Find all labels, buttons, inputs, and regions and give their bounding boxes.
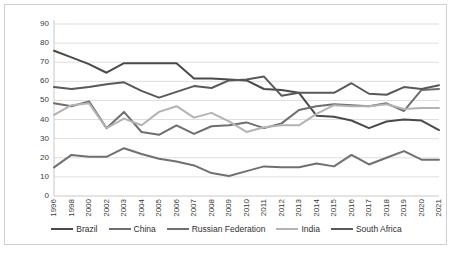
x-axis-tick-label: 2015 bbox=[330, 199, 338, 217]
x-axis-tick-label: 1998 bbox=[68, 199, 76, 217]
x-axis-tick-label: 2013 bbox=[295, 199, 303, 217]
x-axis-tick-label: 2000 bbox=[85, 199, 93, 217]
y-axis-tick-label: 60 bbox=[27, 77, 49, 85]
y-axis-tick-label: 40 bbox=[27, 116, 49, 124]
x-axis-tick-label: 2010 bbox=[243, 199, 251, 217]
y-axis-tick-label: 30 bbox=[27, 135, 49, 143]
legend-item-china[interactable]: China bbox=[109, 224, 156, 234]
legend-swatch-icon bbox=[51, 228, 73, 231]
series-line-china bbox=[54, 89, 439, 135]
chart-legend: BrazilChinaRussian FederationIndiaSouth … bbox=[5, 224, 448, 234]
x-axis-tick-label: 2016 bbox=[348, 199, 356, 217]
chart-container: Corruption control level 010203040506070… bbox=[4, 4, 447, 245]
y-axis-tick-label: 20 bbox=[27, 154, 49, 162]
x-axis-tick-label: 2017 bbox=[365, 199, 373, 217]
x-axis-tick-label: 2004 bbox=[138, 199, 146, 217]
y-axis-tick-label: 70 bbox=[27, 58, 49, 66]
legend-label: India bbox=[301, 224, 319, 234]
legend-swatch-icon bbox=[167, 228, 189, 231]
x-axis-tick-label: 2002 bbox=[103, 199, 111, 217]
x-axis-tick-label: 2021 bbox=[435, 199, 443, 217]
legend-label: South Africa bbox=[356, 224, 402, 234]
x-axis-tick-label: 2008 bbox=[208, 199, 216, 217]
x-axis-tick-label: 2003 bbox=[120, 199, 128, 217]
legend-label: Brazil bbox=[76, 224, 97, 234]
x-axis-tick-label: 2011 bbox=[260, 199, 268, 216]
legend-label: Russian Federation bbox=[192, 224, 266, 234]
legend-item-brazil[interactable]: Brazil bbox=[51, 224, 97, 234]
x-axis-tick-label: 2019 bbox=[400, 199, 408, 217]
x-axis-tick-label: 2005 bbox=[155, 199, 163, 217]
plot-area: 0102030405060708090199619982000200220032… bbox=[5, 5, 448, 246]
legend-swatch-icon bbox=[276, 228, 298, 231]
legend-item-russian-federation[interactable]: Russian Federation bbox=[167, 224, 266, 234]
x-axis-tick-label: 2014 bbox=[313, 199, 321, 217]
x-axis-tick-label: 2009 bbox=[225, 199, 233, 217]
legend-swatch-icon bbox=[331, 228, 353, 231]
x-axis-tick-label: 1996 bbox=[50, 199, 58, 217]
series-line-south-africa bbox=[54, 77, 439, 98]
x-axis-tick-label: 2007 bbox=[190, 199, 198, 217]
y-axis-tick-label: 80 bbox=[27, 39, 49, 47]
series-line-india bbox=[54, 103, 439, 132]
legend-label: China bbox=[134, 224, 156, 234]
legend-item-south-africa[interactable]: South Africa bbox=[331, 224, 402, 234]
x-axis-tick-label: 2006 bbox=[173, 199, 181, 217]
x-axis-tick-label: 2018 bbox=[383, 199, 391, 217]
x-axis-tick-label: 2020 bbox=[418, 199, 426, 217]
legend-item-india[interactable]: India bbox=[276, 224, 319, 234]
y-axis-tick-label: 10 bbox=[27, 173, 49, 181]
series-line-russian-federation bbox=[54, 148, 439, 176]
y-axis-tick-label: 0 bbox=[27, 192, 49, 200]
legend-swatch-icon bbox=[109, 228, 131, 231]
y-axis-tick-label: 90 bbox=[27, 20, 49, 28]
y-axis-tick-label: 50 bbox=[27, 96, 49, 104]
x-axis-tick-label: 2012 bbox=[278, 199, 286, 217]
